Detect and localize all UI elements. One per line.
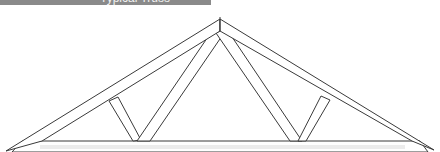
truss-diagram <box>0 0 440 152</box>
bottom-chord <box>12 141 428 152</box>
left-outer-web <box>109 97 141 141</box>
right-outer-web <box>298 96 330 141</box>
